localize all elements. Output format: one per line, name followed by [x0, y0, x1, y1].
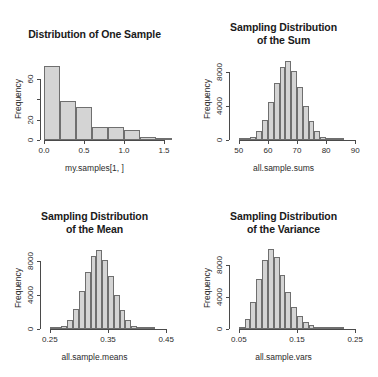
y-axis-title: Frequency [202, 268, 212, 308]
histogram-bars [233, 58, 361, 140]
y-axis-tick [226, 140, 230, 141]
y-axis-tick [37, 140, 41, 141]
x-axis-tick-label: 0.45 [158, 335, 174, 344]
panel-title-line: Sampling Distribution [0, 210, 189, 223]
plot-area-one-sample: 0.00.51.01.502060 [44, 58, 172, 140]
x-axis-title: all.sample.means [0, 352, 189, 362]
y-axis-tick-label: 0 [215, 138, 224, 142]
plot-area-sum: 5060708090040008000 [233, 58, 361, 140]
x-axis-tick-label: 1.5 [158, 146, 169, 155]
x-axis-tick [84, 140, 85, 144]
x-axis-tick [50, 329, 51, 333]
y-axis-tick [37, 79, 41, 80]
y-axis-tick [37, 295, 41, 296]
y-axis-tick-label: 4000 [26, 286, 35, 304]
panel-title: Sampling Distribution of the Variance [189, 210, 378, 235]
x-axis-tick-label: 70 [293, 146, 302, 155]
x-axis-tick [164, 140, 165, 144]
histogram-bar [76, 107, 92, 140]
panel-sum: Sampling Distribution of the Sum Frequen… [189, 0, 378, 188]
x-axis-tick [355, 140, 356, 144]
panel-title-line: of the Variance [189, 223, 378, 236]
plot-area-mean: 0.250.350.45040008000 [44, 247, 172, 329]
x-axis-tick [108, 329, 109, 333]
histogram-bar [108, 127, 124, 140]
x-axis-tick-label: 0.05 [231, 335, 247, 344]
panel-title-line: of the Sum [189, 34, 378, 47]
x-axis-tick [355, 329, 356, 333]
x-axis-tick [124, 140, 125, 144]
x-axis-tick-label: 0.25 [42, 335, 58, 344]
x-axis-tick [297, 140, 298, 144]
x-axis-tick [239, 140, 240, 144]
panel-mean: Sampling Distribution of the Mean Freque… [0, 189, 189, 377]
x-axis-title: my.samples[1, ] [0, 163, 189, 173]
panel-title: Sampling Distribution of the Mean [0, 210, 189, 235]
y-axis-line [40, 79, 41, 141]
x-axis-tick-label: 90 [351, 146, 360, 155]
histogram-bars [44, 58, 172, 140]
y-axis-title: Frequency [202, 79, 212, 119]
panel-title: Distribution of One Sample [0, 28, 189, 41]
y-axis-tick-label: 0 [26, 327, 35, 331]
y-axis-tick [226, 265, 230, 266]
x-axis-tick [239, 329, 240, 333]
x-axis-tick-label: 0.15 [289, 335, 305, 344]
histogram-grid: Distribution of One Sample Frequency 0.0… [0, 0, 378, 377]
y-axis-tick [37, 120, 41, 121]
y-axis-line [40, 261, 41, 329]
x-axis-tick [268, 140, 269, 144]
x-axis-tick [166, 329, 167, 333]
y-axis-tick-label: 4000 [215, 288, 224, 306]
panel-title: Sampling Distribution of the Sum [189, 21, 378, 46]
y-axis-tick-label: 20 [26, 115, 35, 124]
x-axis-title: all.sample.vars [189, 352, 378, 362]
y-axis-tick-label: 0 [26, 138, 35, 142]
x-axis-tick [297, 329, 298, 333]
y-axis-tick-label: 0 [215, 327, 224, 331]
histogram-bars [233, 247, 361, 329]
panel-title-line: Distribution of One Sample [0, 28, 189, 41]
y-axis-tick [226, 329, 230, 330]
x-axis-line [44, 140, 164, 141]
y-axis-tick-label: 8000 [215, 63, 224, 81]
panel-variance: Sampling Distribution of the Variance Fr… [189, 189, 378, 377]
x-axis-tick-label: 60 [263, 146, 272, 155]
histogram-bars [44, 247, 172, 329]
y-axis-tick [37, 261, 41, 262]
x-axis-tick [326, 140, 327, 144]
plot-area-variance: 0.050.150.25040008000 [233, 247, 361, 329]
y-axis-tick [226, 72, 230, 73]
x-axis-tick [44, 140, 45, 144]
x-axis-tick-label: 80 [322, 146, 331, 155]
x-axis-tick-label: 50 [234, 146, 243, 155]
y-axis-tick [37, 99, 41, 100]
y-axis-tick-label: 8000 [26, 252, 35, 270]
x-axis-title: all.sample.sums [189, 163, 378, 173]
y-axis-tick-label: 60 [26, 74, 35, 83]
x-axis-tick-label: 0.25 [347, 335, 363, 344]
y-axis-tick [226, 106, 230, 107]
x-axis-tick-label: 1.0 [118, 146, 129, 155]
y-axis-tick-label: 4000 [215, 97, 224, 115]
y-axis-tick-label: 8000 [215, 256, 224, 274]
x-axis-tick-label: 0.5 [78, 146, 89, 155]
x-axis-tick-label: 0.35 [100, 335, 116, 344]
y-axis-title: Frequency [13, 79, 23, 119]
histogram-bar [60, 101, 76, 140]
panel-one-sample: Distribution of One Sample Frequency 0.0… [0, 0, 189, 188]
y-axis-tick [37, 329, 41, 330]
histogram-bar [124, 130, 140, 140]
y-axis-line [229, 72, 230, 140]
panel-title-line: of the Mean [0, 223, 189, 236]
y-axis-tick [226, 297, 230, 298]
y-axis-title: Frequency [13, 268, 23, 308]
x-axis-tick-label: 0.0 [38, 146, 49, 155]
panel-title-line: Sampling Distribution [189, 210, 378, 223]
panel-title-line: Sampling Distribution [189, 21, 378, 34]
y-axis-line [229, 265, 230, 329]
histogram-bar [92, 127, 108, 140]
histogram-bar [44, 66, 60, 140]
